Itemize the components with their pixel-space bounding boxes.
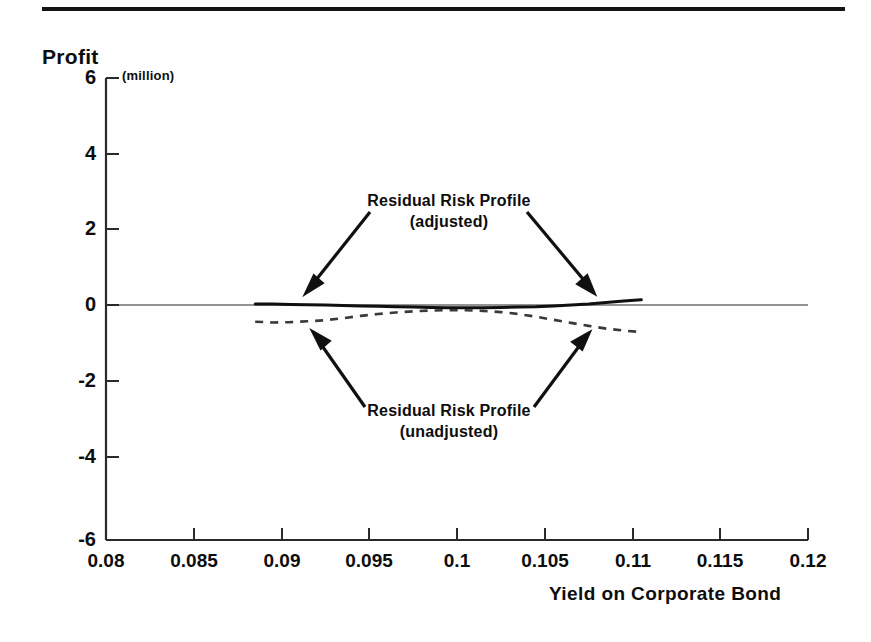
arrow-adjusted-right-head [578, 276, 594, 293]
x-tick-label-0-085: 0.085 [149, 550, 239, 572]
chart-canvas [0, 0, 871, 642]
y-tick-label-4: 4 [52, 142, 96, 165]
annotation-arrows-unadjusted [313, 332, 589, 407]
adjusted-risk-profile-line [255, 300, 641, 308]
y-tick-marks [106, 78, 119, 540]
series-unadjusted [255, 310, 641, 332]
figure-root: Profit (million) 6 4 2 0 -2 -4 -6 0.08 0… [0, 0, 871, 642]
x-tick-label-0-11: 0.11 [588, 550, 678, 572]
annotation-unadjusted: Residual Risk Profile (unadjusted) [338, 400, 560, 442]
annotation-adjusted-line2: (adjusted) [338, 211, 560, 232]
annotation-unadjusted-line1: Residual Risk Profile [338, 400, 560, 421]
x-tick-marks [106, 528, 808, 540]
arrow-unadjusted-left-shaft [318, 340, 365, 407]
annotation-adjusted: Residual Risk Profile (adjusted) [338, 190, 560, 232]
y-tick-label-0: 0 [52, 293, 96, 316]
series-adjusted [255, 300, 641, 308]
arrow-adjusted-left-head [306, 276, 322, 293]
unadjusted-risk-profile-line [255, 310, 641, 332]
y-tick-label-2: 2 [52, 217, 96, 240]
annotation-adjusted-line1: Residual Risk Profile [338, 190, 560, 211]
y-tick-label-neg2: -2 [52, 369, 96, 392]
x-tick-label-0-08: 0.08 [61, 550, 151, 572]
x-tick-label-0-115: 0.115 [675, 550, 765, 572]
x-tick-label-0-105: 0.105 [500, 550, 590, 572]
arrow-unadjusted-left-head [313, 332, 329, 348]
y-tick-label-6: 6 [52, 66, 96, 89]
y-tick-label-neg4: -4 [52, 445, 96, 468]
x-tick-label-0-1: 0.1 [412, 550, 502, 572]
x-tick-label-0-095: 0.095 [324, 550, 414, 572]
x-tick-label-0-09: 0.09 [237, 550, 327, 572]
annotation-unadjusted-line2: (unadjusted) [338, 421, 560, 442]
arrow-unadjusted-right-shaft [534, 341, 583, 407]
y-tick-label-neg6: -6 [52, 528, 96, 551]
y-axis-unit-note: (million) [122, 68, 174, 83]
x-tick-label-0-12: 0.12 [763, 550, 853, 572]
x-axis-title: Yield on Corporate Bond [549, 583, 781, 605]
arrow-unadjusted-right-head [573, 333, 589, 349]
